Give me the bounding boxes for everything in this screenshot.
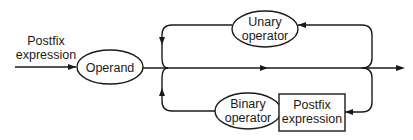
top-loop-arrowhead-right <box>298 22 306 28</box>
binary-operator-node: Binary operator <box>215 93 281 129</box>
operand-node: Operand <box>77 50 143 84</box>
input-label-line-1: Postfix <box>27 34 65 48</box>
binary-operator-label-line-1: Binary <box>230 97 266 111</box>
bottom-loop-arrowhead-left <box>159 88 165 96</box>
syntax-diagram: Postfix expression Operand Unary operato… <box>0 0 413 140</box>
operand-label: Operand <box>86 61 135 75</box>
bottom-loop-left <box>162 68 215 111</box>
unary-operator-label-line-2: operator <box>242 29 289 43</box>
input-label: Postfix expression <box>16 34 76 62</box>
top-loop-left <box>162 25 232 68</box>
top-loop-right <box>298 25 372 68</box>
exit-arrowhead <box>396 65 405 71</box>
top-loop-arrowhead-left <box>159 37 165 45</box>
postfix-expression-node: Postfix expression <box>279 94 345 131</box>
postfix-expression-label-line-1: Postfix <box>293 98 331 112</box>
bottom-loop-arrowhead-right <box>345 109 353 115</box>
main-line-arrowhead <box>260 65 268 71</box>
binary-operator-label-line-2: operator <box>225 111 272 125</box>
postfix-expression-label-line-2: expression <box>282 112 342 126</box>
bottom-loop-right <box>345 68 372 112</box>
unary-operator-label-line-1: Unary <box>248 15 282 29</box>
input-label-line-2: expression <box>16 48 76 62</box>
entry-arrowhead <box>68 64 76 70</box>
unary-operator-node: Unary operator <box>232 11 298 47</box>
